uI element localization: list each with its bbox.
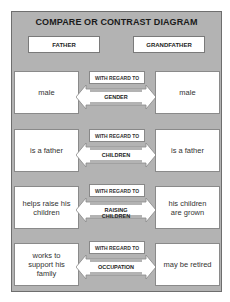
row-1-left-text: male [38,88,54,97]
diagram-frame: COMPARE OR CONTRAST DIAGRAM FATHER GRAND… [11,11,222,292]
row-4-left-text: works to support his family [22,251,72,278]
row-4-right-text: may be retired [164,260,212,269]
row-1-right-text: male [179,88,195,97]
row-2-right-text: is a father [171,146,204,155]
row-1-left-box: male [14,71,79,114]
row-3-attribute: RAISING CHILDREN [92,207,140,219]
row-2-left-box: is a father [14,129,79,172]
row-1-attribute: GENDER [92,94,140,100]
diagram-title: COMPARE OR CONTRAST DIAGRAM [12,17,221,27]
row-1-right-box: male [155,71,220,114]
left-heading: FATHER [28,36,100,53]
row-2-right-box: is a father [155,129,220,172]
row-3-connector-label: WITH REGARD TO [89,184,145,197]
row-4-left-box: works to support his family [14,243,79,286]
row-2-connector-label: WITH REGARD TO [89,129,145,142]
row-3-right-box: his children are grown [155,186,220,229]
row-2-left-text: is a father [30,146,63,155]
row-2-attribute: CHILDREN [92,152,140,158]
row-3-left-text: helps raise his children [15,199,78,217]
row-3-right-text: his children are grown [168,199,208,217]
row-1-connector-label: WITH REGARD TO [89,71,145,84]
row-3-left-box: helps raise his children [14,186,79,229]
right-heading: GRANDFATHER [133,36,205,53]
row-4-connector-label: WITH REGARD TO [89,241,145,254]
row-4-attribute: OCCUPATION [92,264,140,270]
row-4-right-box: may be retired [155,243,220,286]
